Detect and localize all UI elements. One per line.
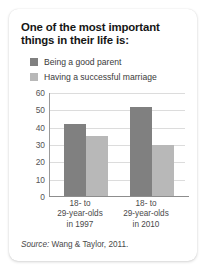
x-label-line-2: 29-year-olds (123, 209, 169, 218)
source-citation: Wang & Taylor, 2011. (52, 240, 129, 249)
y-axis-tick-label: 60 (36, 89, 45, 97)
y-axis-tick-label: 50 (36, 106, 45, 114)
bar-series-1-2010 (130, 107, 152, 196)
x-label-line-2: 29-year-olds (57, 209, 103, 218)
y-axis-tick-label: 30 (36, 141, 45, 149)
chart-title-line-1: One of the most important (21, 21, 160, 33)
chart-title-line-2: things in their life is: (21, 34, 129, 46)
plot-area: 60 50 40 30 20 10 0 (25, 93, 185, 197)
bar-series-1-1997 (64, 124, 86, 196)
x-label-line-1: 18- to (70, 199, 91, 208)
x-axis-tick-labels: 18- to 29-year-olds in 1997 18- to 29-ye… (49, 199, 189, 233)
bar-series-2-1997 (86, 136, 108, 196)
legend-item-having-a-successful-marriage: Having a successful marriage (30, 70, 190, 83)
x-axis-tick-label-2010: 18- to 29-year-olds in 2010 (115, 199, 177, 230)
legend-swatch-icon-series-2 (30, 73, 38, 81)
x-label-line-3: in 1997 (67, 220, 94, 229)
y-axis-tick-label: 0 (40, 193, 45, 201)
x-label-line-3: in 2010 (133, 220, 160, 229)
bar-group-1997 (64, 93, 108, 196)
chart-title: One of the most important things in thei… (21, 21, 187, 47)
legend-item-being-a-good-parent: Being a good parent (30, 55, 190, 68)
legend-swatch-icon-series-1 (30, 58, 38, 66)
y-axis-tick-label: 40 (36, 124, 45, 132)
bar-series-2-2010 (152, 145, 174, 197)
chart-card: One of the most important things in thei… (9, 9, 197, 261)
x-axis-line (49, 196, 189, 197)
y-axis-tick-labels: 60 50 40 30 20 10 0 (25, 93, 45, 197)
source-note: Source: Wang & Taylor, 2011. (21, 240, 128, 249)
plot-canvas (49, 93, 185, 197)
x-label-line-1: 18- to (136, 199, 157, 208)
legend-label-series-1: Being a good parent (44, 57, 121, 67)
bar-groups (50, 93, 185, 196)
x-axis-tick-label-1997: 18- to 29-year-olds in 1997 (49, 199, 111, 230)
source-prefix: Source: (21, 240, 49, 249)
y-axis-tick-label: 10 (36, 176, 45, 184)
bar-group-2010 (130, 93, 174, 196)
legend-label-series-2: Having a successful marriage (44, 72, 157, 82)
chart-legend: Being a good parent Having a successful … (30, 55, 190, 85)
y-axis-tick-label: 20 (36, 158, 45, 166)
